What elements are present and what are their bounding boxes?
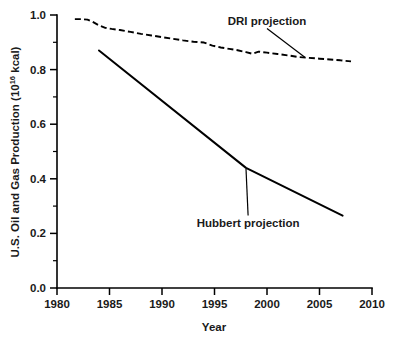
y-axis-title-suffix: kcal)	[9, 46, 21, 76]
line-chart: 0.0 0.2 0.4 0.6 0.8 1.0 1980 1985 1990 1…	[0, 0, 394, 337]
y-tick-label-1: 0.2	[30, 227, 46, 239]
x-axis-title: Year	[202, 321, 227, 333]
series-hubbert-projection	[99, 50, 343, 215]
y-axis-title-main: U.S. Oil and Gas Production (10	[9, 84, 21, 257]
y-tick-label-4: 0.8	[30, 64, 47, 76]
x-axis-major-ticks	[57, 288, 372, 295]
y-tick-label-2: 0.4	[30, 173, 47, 185]
series-dri-projection	[75, 19, 351, 61]
dri-annotation-label: DRI projection	[228, 15, 307, 27]
hubbert-annotation-label: Hubbert projection	[197, 217, 300, 229]
y-tick-label-3: 0.6	[30, 118, 46, 130]
x-tick-label-1: 1985	[97, 298, 123, 310]
x-tick-label-3: 1995	[202, 298, 228, 310]
x-tick-label-5: 2005	[307, 298, 333, 310]
svg-text:U.S. Oil and Gas Production (1: U.S. Oil and Gas Production (1016 kcal)	[8, 46, 21, 257]
hubbert-leader-line	[246, 169, 248, 216]
series-group	[75, 19, 351, 216]
x-tick-label-0: 1980	[44, 298, 70, 310]
x-tick-label-6: 2010	[359, 298, 385, 310]
chart-figure: 0.0 0.2 0.4 0.6 0.8 1.0 1980 1985 1990 1…	[0, 0, 394, 337]
annotation-hubbert: Hubbert projection	[197, 169, 300, 229]
y-tick-label-5: 1.0	[30, 9, 46, 21]
y-axis-title: U.S. Oil and Gas Production (1016 kcal)	[8, 46, 21, 257]
y-tick-label-0: 0.0	[30, 282, 46, 294]
x-tick-label-4: 2000	[254, 298, 280, 310]
y-axis-title-exponent: 16	[8, 76, 17, 84]
x-tick-label-2: 1990	[149, 298, 175, 310]
